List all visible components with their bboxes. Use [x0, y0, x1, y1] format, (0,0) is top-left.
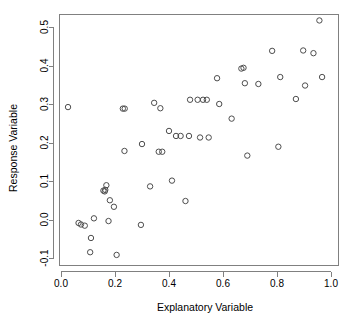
data-point — [214, 76, 219, 81]
x-axis-tick-label: 0.6 — [216, 278, 230, 289]
data-point — [206, 135, 211, 140]
y-axis-tick-label: 0.5 — [39, 20, 50, 34]
data-point — [88, 235, 93, 240]
data-point — [160, 149, 165, 154]
data-point — [169, 178, 174, 183]
data-point — [91, 216, 96, 221]
data-point — [319, 74, 324, 79]
data-point — [195, 97, 200, 102]
data-point — [111, 204, 116, 209]
data-point — [242, 81, 247, 86]
data-point — [183, 198, 188, 203]
data-point — [278, 74, 283, 79]
data-point — [114, 252, 119, 257]
data-point — [197, 135, 202, 140]
y-axis-tick-label: 0.0 — [39, 212, 50, 226]
data-point — [139, 141, 144, 146]
x-axis-tick-label: 0.2 — [108, 278, 122, 289]
data-point — [276, 144, 281, 149]
data-point — [122, 148, 127, 153]
data-point — [229, 116, 234, 121]
data-point — [106, 218, 111, 223]
data-point — [147, 184, 152, 189]
x-axis-title: Explanatory Variable — [157, 301, 253, 313]
data-point — [187, 97, 192, 102]
data-point — [158, 106, 163, 111]
data-point — [87, 250, 92, 255]
y-axis-tick-label: 0.3 — [39, 97, 50, 111]
data-point — [317, 18, 322, 23]
data-point — [65, 104, 70, 109]
y-axis-title: Response Variable — [7, 104, 19, 192]
data-point — [138, 222, 143, 227]
data-point — [300, 48, 305, 53]
x-axis-tick-label: 1.0 — [324, 278, 338, 289]
data-point — [293, 96, 298, 101]
plot-canvas: 0.00.20.40.60.81.0 -0.10.00.10.20.30.40.… — [0, 0, 352, 323]
data-point — [217, 101, 222, 106]
y-axis-tick-label: -0.1 — [39, 249, 50, 267]
y-axis-tick-label: 0.1 — [39, 174, 50, 188]
data-point — [151, 100, 156, 105]
x-axis: 0.00.20.40.60.81.0 — [54, 272, 338, 290]
data-point — [107, 198, 112, 203]
data-point — [269, 48, 274, 53]
data-point — [204, 97, 209, 102]
scatter-plot-figure: 0.00.20.40.60.81.0 -0.10.00.10.20.30.40.… — [0, 0, 352, 323]
x-axis-tick-label: 0.8 — [270, 278, 284, 289]
data-point — [302, 83, 307, 88]
data-point — [311, 50, 316, 55]
y-axis: -0.10.00.10.20.30.40.5 — [39, 20, 54, 267]
data-point — [256, 81, 261, 86]
data-points-layer — [65, 18, 324, 258]
data-point — [166, 128, 171, 133]
x-axis-tick-label: 0.0 — [54, 278, 68, 289]
data-point — [245, 153, 250, 158]
x-axis-tick-label: 0.4 — [162, 278, 176, 289]
data-point — [186, 133, 191, 138]
y-axis-tick-label: 0.2 — [39, 135, 50, 149]
y-axis-tick-label: 0.4 — [39, 58, 50, 72]
